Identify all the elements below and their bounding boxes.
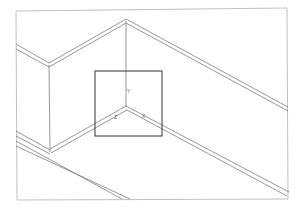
ucs-z-label: Z	[114, 114, 117, 120]
ucs-selection-box[interactable]	[95, 71, 162, 136]
ucs-y-label: Y	[127, 88, 131, 94]
drawing-canvas[interactable]: Y Z X	[0, 0, 300, 214]
cad-viewport[interactable]: Y Z X	[0, 0, 300, 214]
wireframe-geometry	[16, 19, 289, 199]
